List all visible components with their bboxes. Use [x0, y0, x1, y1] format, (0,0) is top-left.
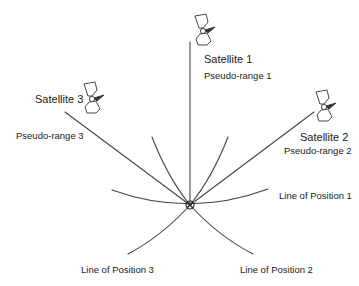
pseudo-range-1-label: Pseudo-range 1	[204, 71, 272, 81]
satellite-2-label: Satellite 2	[300, 132, 348, 143]
pseudo-range-3-label: Pseudo-range 3	[16, 131, 84, 141]
satellite-3-icon	[84, 82, 104, 113]
pseudo-range-2-label: Pseudo-range 2	[284, 146, 352, 156]
pseudo-range-3-line	[65, 112, 190, 205]
line-of-position-1-label: Line of Position 1	[279, 191, 352, 201]
satellite-3-label: Satellite 3	[35, 94, 83, 105]
diagram-canvas	[0, 0, 359, 286]
satellite-1-icon	[195, 14, 215, 45]
satellite-1-label: Satellite 1	[204, 54, 252, 65]
satellite-2-icon	[316, 90, 336, 121]
line-of-position-2-label: Line of Position 2	[240, 265, 313, 275]
line-of-position-3-label: Line of Position 3	[81, 265, 154, 275]
